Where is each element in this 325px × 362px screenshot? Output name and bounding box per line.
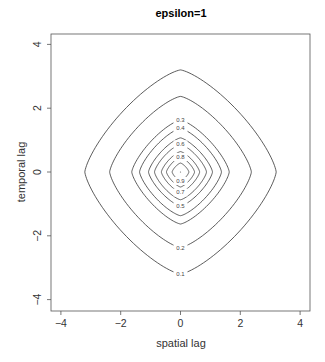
x-tick-label: −4 <box>55 317 67 329</box>
contour-label: 0.6 <box>176 141 185 147</box>
y-tick-label: 0 <box>31 169 43 175</box>
y-tick-label: −2 <box>31 230 43 242</box>
contour-label: 0.5 <box>176 203 185 209</box>
contour-label: 0.3 <box>176 117 185 123</box>
contour-lines: 0.10.20.30.40.50.60.70.80.9 <box>85 70 276 278</box>
contour-label: 0.1 <box>176 271 185 277</box>
x-tick-label: 0 <box>178 317 184 329</box>
x-tick-label: 4 <box>297 317 303 329</box>
contour-label: 0.2 <box>176 245 185 251</box>
x-axis-label: spatial lag <box>156 337 206 349</box>
x-tick-label: 2 <box>237 317 243 329</box>
contour-label: 0.8 <box>176 154 185 160</box>
peak-dot <box>180 171 181 172</box>
y-axis-label: temporal lag <box>15 142 27 203</box>
x-axis: −4−2024 <box>55 311 303 329</box>
contour-label: 0.7 <box>176 189 185 195</box>
contour-plot: epsilon=1 −4−2024 −4−2024 0.10.20.30.40.… <box>0 0 325 362</box>
y-axis: −4−2024 <box>31 41 51 305</box>
x-tick-label: −2 <box>115 317 127 329</box>
contour-label: 0.9 <box>176 178 185 184</box>
chart-title: epsilon=1 <box>155 7 206 19</box>
y-tick-label: −4 <box>31 293 43 305</box>
y-tick-label: 2 <box>31 105 43 111</box>
contour-label: 0.4 <box>176 125 185 131</box>
y-tick-label: 4 <box>31 41 43 47</box>
